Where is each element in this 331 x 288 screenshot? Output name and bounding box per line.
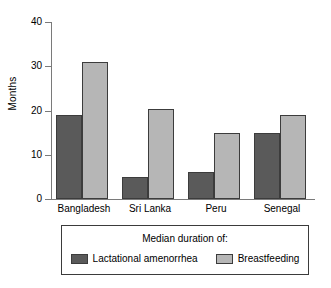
legend-label: Lactational amenorrhea [93,253,198,264]
plot-area: Months 010203040 BangladeshSri LankaPeru… [0,0,331,215]
bars-layer [0,0,331,215]
bar [188,172,214,199]
legend-entries: Lactational amenorrheaBreastfeeding [62,253,308,264]
bar [148,109,174,199]
bar [280,115,306,199]
legend-item: Lactational amenorrhea [71,253,198,264]
legend-title: Median duration of: [62,233,308,244]
bar-chart: Months 010203040 BangladeshSri LankaPeru… [0,0,331,288]
x-axis-tick-label: Peru [183,203,249,214]
legend-swatch [71,254,88,264]
bar [214,133,240,199]
legend-label: Breastfeeding [238,253,300,264]
legend: Median duration of: Lactational amenorrh… [61,225,309,275]
bar [254,133,280,199]
x-axis-tick-label: Sri Lanka [117,203,183,214]
bar [56,115,82,199]
x-axis-tick-label: Senegal [249,203,315,214]
legend-swatch [216,254,233,264]
legend-item: Breastfeeding [216,253,300,264]
bar [82,62,108,199]
x-axis-tick-label: Bangladesh [51,203,117,214]
bar [122,177,148,199]
